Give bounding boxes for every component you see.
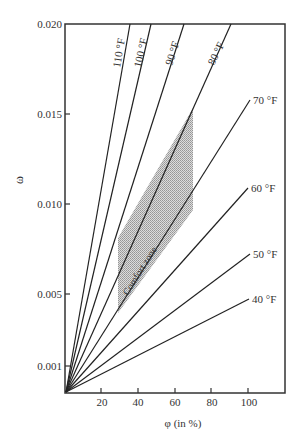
svg-text:0.010: 0.010 xyxy=(37,198,62,210)
label-70f: 70 °F xyxy=(253,94,277,106)
y-tick-labels: 0.020 0.015 0.010 0.005 0.001 xyxy=(37,18,62,372)
x-axis-label: φ (in %) xyxy=(165,417,202,430)
svg-text:100: 100 xyxy=(241,396,258,408)
label-100f: 100 °F xyxy=(131,37,149,69)
label-40f: 40 °F xyxy=(252,293,276,305)
y-axis-label: ω xyxy=(12,176,26,184)
svg-text:80: 80 xyxy=(207,396,219,408)
label-110f: 110 °F xyxy=(110,37,127,68)
svg-text:60: 60 xyxy=(170,396,182,408)
svg-text:0.001: 0.001 xyxy=(37,360,62,372)
svg-text:0.020: 0.020 xyxy=(37,18,62,30)
label-80f: 80 °F xyxy=(205,40,226,67)
x-tick-labels: 20 40 60 80 100 xyxy=(97,396,258,408)
label-50f: 50 °F xyxy=(253,248,277,260)
psychrometric-chart: 0.020 0.015 0.010 0.005 0.001 20 40 60 8… xyxy=(0,0,301,444)
line-80f xyxy=(66,24,231,392)
line-70f xyxy=(66,100,250,392)
svg-text:20: 20 xyxy=(97,396,109,408)
label-90f: 90 °F xyxy=(162,40,181,67)
svg-text:0.005: 0.005 xyxy=(37,288,62,300)
label-60f: 60 °F xyxy=(251,182,275,194)
line-40f xyxy=(66,299,249,392)
svg-text:40: 40 xyxy=(133,396,145,408)
line-110f xyxy=(66,24,130,392)
svg-text:0.015: 0.015 xyxy=(37,108,62,120)
